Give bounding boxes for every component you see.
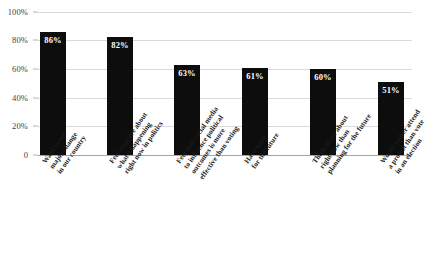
bar-value-label: 61% — [242, 72, 268, 81]
gridline-80 — [38, 40, 412, 41]
bar-value-label: 82% — [107, 41, 133, 50]
gridline-60 — [38, 69, 412, 70]
bar-value-label: 86% — [40, 36, 66, 45]
gridline-40 — [38, 98, 412, 99]
y-tick-label: 80% — [0, 36, 28, 45]
y-tick-label: 60% — [0, 65, 28, 74]
y-tick-label: 20% — [0, 122, 28, 131]
gridline-100 — [38, 12, 412, 13]
y-tick-label: 40% — [0, 93, 28, 102]
x-axis-line — [38, 155, 412, 156]
bar-value-label: 63% — [174, 69, 200, 78]
y-tick-label: 100% — [0, 7, 28, 16]
bar-value-label: 60% — [310, 73, 336, 82]
bar-value-label: 51% — [378, 86, 404, 95]
y-tick-label: 0 — [0, 151, 28, 160]
